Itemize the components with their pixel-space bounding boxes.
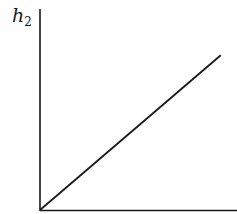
series-line-h2 (40, 55, 221, 210)
y-axis-label: h2 (12, 6, 32, 28)
line-chart (0, 0, 237, 214)
y-axis-label-base: h (12, 4, 24, 26)
y-axis-label-subscript: 2 (24, 15, 32, 29)
